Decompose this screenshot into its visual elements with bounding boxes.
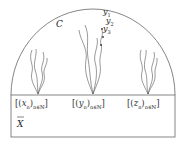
dome-label: C — [56, 20, 63, 29]
index: n∈ℕ — [145, 104, 157, 110]
bracket-open: [( — [15, 98, 22, 108]
space-label: X — [17, 120, 23, 129]
bracket-close: ] — [102, 98, 105, 108]
index: n∈ℕ — [33, 104, 45, 110]
chain-label-y3: y3 — [103, 25, 111, 35]
sequence-label-y: [(yn)n∈ℕ] — [72, 99, 105, 110]
sequence-label-z: [(zn)n∈ℕ] — [127, 99, 160, 110]
index: n∈ℕ — [90, 104, 102, 110]
right-fiber-curves — [140, 50, 157, 94]
middle-fiber-curves — [79, 25, 102, 94]
dome-boundary — [11, 9, 175, 95]
bracket-close: ] — [156, 98, 159, 108]
bracket-open: [( — [127, 98, 134, 108]
diagram-canvas — [0, 0, 186, 144]
bracket-close: ] — [45, 98, 48, 108]
bracket-open: [( — [72, 98, 79, 108]
sequence-label-x: [(xn)n∈ℕ] — [15, 99, 48, 110]
left-fiber-curves — [31, 49, 48, 94]
